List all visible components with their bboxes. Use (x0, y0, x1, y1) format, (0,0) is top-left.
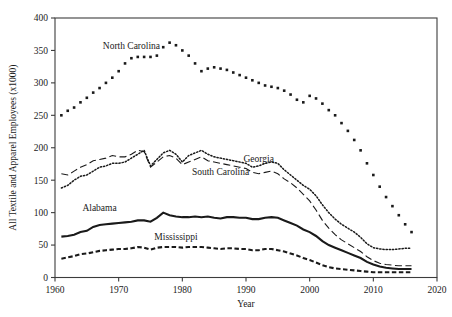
series-label-alabama: Alabama (82, 203, 117, 213)
y-tick-label: 300 (34, 78, 49, 88)
data-point (117, 70, 120, 73)
data-point (245, 76, 248, 79)
data-point (219, 67, 222, 70)
data-point (111, 76, 114, 79)
data-point (353, 139, 356, 142)
data-point (238, 74, 241, 77)
data-point (398, 214, 401, 217)
chart-axes: 0501001502002503003504001960197019801990… (8, 13, 447, 308)
data-point (143, 56, 146, 59)
x-tick-label: 1980 (173, 285, 192, 295)
data-point (359, 149, 362, 152)
y-tick-label: 50 (39, 240, 49, 250)
data-point (347, 130, 350, 133)
data-point (73, 106, 76, 109)
data-point (130, 57, 133, 60)
y-tick-label: 200 (34, 143, 49, 153)
y-tick-label: 0 (43, 273, 48, 283)
series-label-north-carolina: North Carolina (103, 41, 161, 51)
data-point (98, 87, 101, 90)
data-point (404, 223, 407, 226)
data-point (257, 82, 260, 85)
x-tick-label: 1960 (46, 285, 65, 295)
x-tick-label: 1970 (109, 285, 128, 295)
series-label-mississippi: Mississippi (154, 232, 198, 242)
data-point (187, 54, 190, 57)
data-point (60, 114, 63, 117)
data-point (86, 96, 89, 99)
data-point (156, 54, 159, 57)
data-point (385, 196, 388, 199)
data-point (264, 84, 267, 87)
data-point (321, 102, 324, 105)
series-line (61, 150, 411, 249)
x-axis-title: Year (237, 299, 255, 309)
data-point (168, 41, 171, 44)
data-point (181, 49, 184, 52)
x-tick-label: 2000 (300, 285, 319, 295)
line-chart: 0501001502002503003504001960197019801990… (0, 0, 452, 317)
data-point (124, 62, 127, 65)
data-point (340, 122, 343, 125)
y-tick-label: 350 (34, 46, 49, 56)
y-tick-label: 150 (34, 176, 49, 186)
data-point (283, 89, 286, 92)
data-point (334, 114, 337, 117)
series-line (61, 213, 411, 269)
data-point (207, 67, 210, 70)
x-tick-label: 2020 (428, 285, 447, 295)
series-label-south-carolina: South Carolina (192, 167, 250, 177)
series-label-georgia: Georgia (244, 154, 275, 164)
data-point (327, 109, 330, 112)
data-point (391, 205, 394, 208)
y-axis-title: All Textile and Apparel Employees (x1000… (8, 65, 19, 231)
x-tick-label: 1990 (237, 285, 256, 295)
data-point (213, 66, 216, 69)
data-point (136, 56, 139, 59)
y-tick-label: 400 (34, 13, 49, 23)
data-point (79, 101, 82, 104)
data-point (410, 231, 413, 234)
data-point (66, 109, 69, 112)
data-point (296, 98, 299, 101)
data-point (175, 44, 178, 47)
data-point (315, 97, 318, 100)
data-point (366, 162, 369, 165)
data-point (162, 46, 165, 49)
chart-figure: 0501001502002503003504001960197019801990… (0, 0, 452, 317)
y-tick-label: 250 (34, 111, 49, 121)
data-point (194, 62, 197, 65)
data-point (251, 79, 254, 82)
data-point (270, 85, 273, 88)
data-point (232, 71, 235, 74)
chart-plot-area (60, 41, 413, 272)
data-point (105, 82, 108, 85)
data-point (200, 70, 203, 73)
y-tick-label: 100 (34, 208, 49, 218)
data-point (302, 101, 305, 104)
data-point (372, 174, 375, 177)
data-point (226, 69, 229, 72)
data-point (378, 185, 381, 188)
chart-annotations: North CarolinaGeorgiaSouth CarolinaAlaba… (82, 41, 274, 242)
data-point (289, 93, 292, 96)
x-tick-label: 2010 (364, 285, 383, 295)
data-point (277, 87, 280, 90)
data-point (92, 91, 95, 94)
data-point (149, 56, 152, 59)
data-point (308, 95, 311, 98)
